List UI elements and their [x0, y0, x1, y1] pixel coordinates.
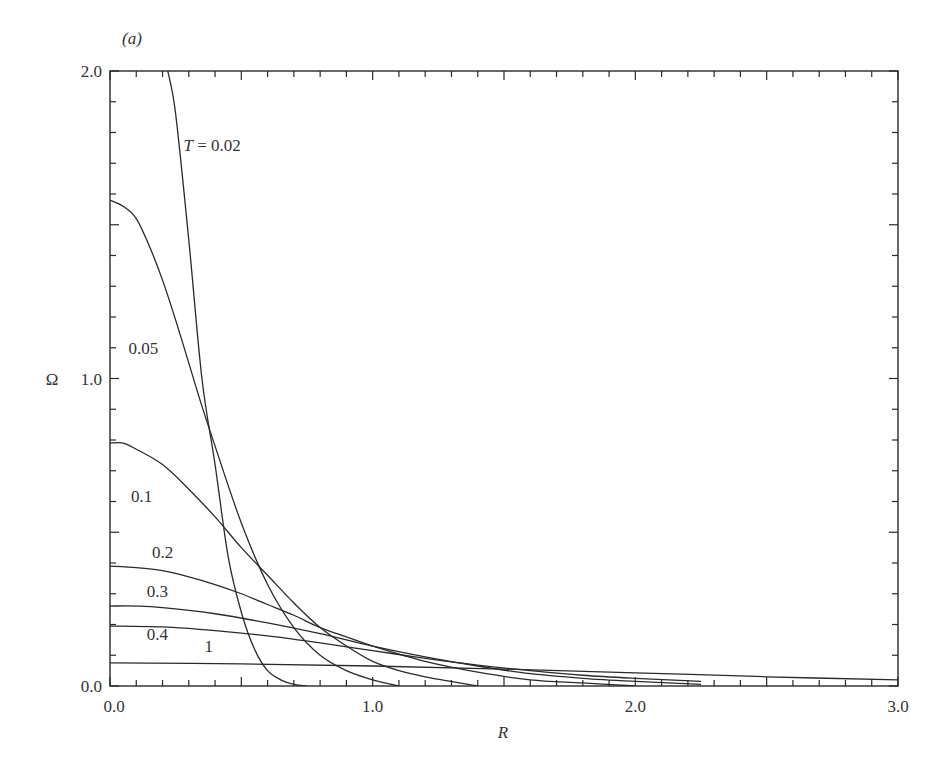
x-tick-label: 0.0 [103, 697, 124, 716]
x-tick-label: 3.0 [887, 697, 908, 716]
curve-labels: T = 0.020.050.10.20.30.41 [128, 136, 240, 656]
curve-t-0-05 [110, 200, 399, 686]
y-tick-label: 1.0 [81, 370, 102, 389]
curve-label: 1 [205, 637, 214, 656]
curves-group [110, 71, 898, 686]
curve-label: T = 0.02 [184, 136, 241, 155]
curve-label: 0.3 [147, 582, 168, 601]
curve-label: 0.05 [128, 339, 158, 358]
y-tick-label: 0.0 [81, 677, 102, 696]
axis-ticks: 0.01.02.03.00.01.02.0 [81, 62, 909, 716]
curve-t-0-1 [110, 443, 478, 686]
plot-frame [110, 71, 898, 686]
curve-t-0-2 [110, 566, 635, 686]
x-tick-label: 2.0 [625, 697, 646, 716]
curve-label: 0.1 [131, 487, 152, 506]
y-tick-label: 2.0 [81, 62, 102, 81]
panel-label: (a) [122, 29, 142, 48]
x-axis-label: R [497, 723, 509, 742]
curve-label: 0.2 [152, 543, 173, 562]
chart-svg: (a) 0.01.02.03.00.01.02.0 T = 0.020.050.… [0, 0, 951, 783]
y-axis-label: Ω [46, 370, 59, 389]
curve-t-0-02 [168, 71, 307, 686]
x-tick-label: 1.0 [362, 697, 383, 716]
curve-label: 0.4 [147, 625, 169, 644]
